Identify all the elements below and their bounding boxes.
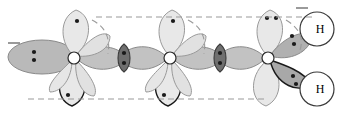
bond1-dot-a (122, 51, 126, 55)
orbital-diagram-svg: H H (0, 0, 344, 117)
lone-pair-left-dot-b (32, 58, 36, 62)
atom-node-carbon-2 (164, 52, 176, 64)
bond2-dot-a (218, 51, 222, 55)
electron-c2-bottom-dot (162, 93, 166, 97)
ch-bottom-dot-b (294, 82, 298, 86)
electron-c1-bottom-dot (66, 93, 70, 97)
sigma-lobe-group (8, 40, 266, 74)
ch-top-dot-a (290, 34, 294, 38)
sigma-overlap-c1-c2 (118, 44, 130, 72)
ch-bottom-dot-a (291, 74, 295, 78)
sigma-overlap-c2-c3 (214, 44, 226, 72)
atom-node-carbon-1 (68, 52, 80, 64)
hydrogen-top-right-label: H (316, 22, 325, 36)
electron-c1-top-dot (75, 19, 79, 23)
hydrogen-group: H H (300, 12, 334, 106)
bond2-dot-b (218, 61, 222, 65)
hydrogen-bottom-right-label: H (316, 82, 325, 96)
orbital-diagram-canvas: H H (0, 0, 344, 117)
ch-top-dot-b (292, 42, 296, 46)
electron-c2-top-dot (171, 19, 175, 23)
bond1-dot-b (122, 61, 126, 65)
lone-pair-left-dot-a (32, 50, 36, 54)
atom-node-carbon-3 (262, 52, 274, 64)
